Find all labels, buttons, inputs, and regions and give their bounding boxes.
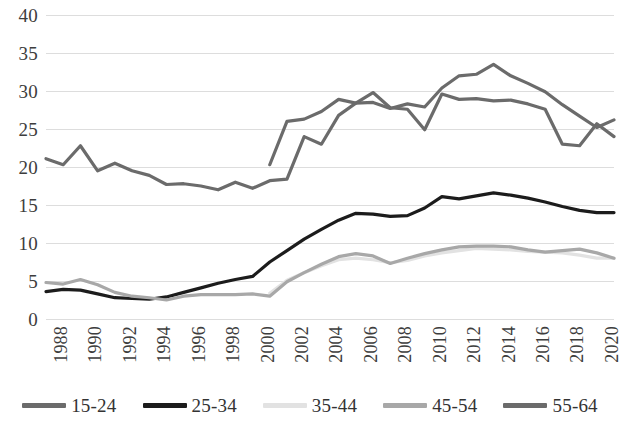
y-tick-label: 15: [0, 196, 38, 215]
x-tick-label: 2016: [534, 326, 552, 363]
legend-swatch-icon: [143, 403, 187, 408]
x-tick-label: 1988: [52, 326, 70, 363]
legend-item-55-64[interactable]: 55-64: [503, 396, 597, 415]
legend: 15-2425-3435-4445-5455-64: [0, 396, 620, 415]
x-tick-label: 2008: [396, 326, 414, 363]
y-tick-label: 5: [0, 272, 38, 291]
legend-label: 55-64: [552, 396, 597, 415]
series-line-25-34: [46, 193, 614, 299]
legend-label: 15-24: [71, 396, 116, 415]
legend-label: 45-54: [432, 396, 477, 415]
legend-swatch-icon: [503, 403, 547, 408]
series-line-35-44: [270, 248, 614, 293]
x-tick-label: 2010: [431, 326, 449, 363]
y-tick-label: 40: [0, 6, 38, 25]
x-tick-label: 2004: [327, 326, 345, 363]
legend-item-25-34[interactable]: 25-34: [143, 396, 237, 415]
series-line-55-64: [46, 64, 614, 189]
series-line-45-54: [46, 246, 614, 300]
y-tick-label: 0: [0, 310, 38, 329]
x-tick-label: 2020: [603, 326, 620, 363]
y-tick-label: 10: [0, 234, 38, 253]
x-tick-label: 2018: [568, 326, 586, 363]
x-tick-label: 1998: [224, 326, 242, 363]
x-tick-label: 2014: [500, 326, 518, 363]
legend-item-35-44[interactable]: 35-44: [263, 396, 357, 415]
y-tick-label: 20: [0, 158, 38, 177]
legend-label: 35-44: [312, 396, 357, 415]
x-tick-label: 2002: [293, 326, 311, 363]
legend-swatch-icon: [22, 403, 66, 408]
plot-area: [46, 15, 614, 319]
legend-swatch-icon: [383, 403, 427, 408]
x-tick-label: 2006: [362, 326, 380, 363]
y-tick-label: 25: [0, 120, 38, 139]
x-tick-label: 2012: [465, 326, 483, 363]
y-tick-label: 30: [0, 82, 38, 101]
series-lines: [46, 15, 614, 319]
x-tick-label: 1992: [121, 326, 139, 363]
x-tick-label: 1990: [86, 326, 104, 363]
legend-swatch-icon: [263, 403, 307, 408]
legend-item-15-24[interactable]: 15-24: [22, 396, 116, 415]
x-tick-label: 1996: [190, 326, 208, 363]
line-chart: 0510152025303540 19881990199219941996199…: [0, 0, 620, 424]
y-tick-label: 35: [0, 44, 38, 63]
gridline: [46, 319, 614, 320]
x-tick-label: 1994: [155, 326, 173, 363]
legend-label: 25-34: [192, 396, 237, 415]
x-tick-label: 2000: [259, 326, 277, 363]
legend-item-45-54[interactable]: 45-54: [383, 396, 477, 415]
